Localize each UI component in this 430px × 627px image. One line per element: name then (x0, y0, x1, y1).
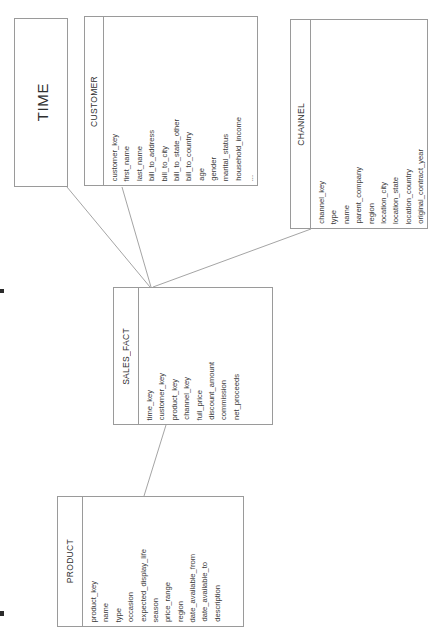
entity-customer[interactable]: CUSTOMER customer_key first_name last_na… (84, 16, 258, 186)
field-item: customer_key (109, 134, 121, 181)
field-item: name (100, 603, 112, 622)
field-item: bill_to_address (146, 130, 158, 181)
entity-product[interactable]: PRODUCT product_key name type occasion e… (57, 496, 244, 627)
entity-time-title: TIME (34, 83, 51, 121)
link-product-salesfact (144, 425, 166, 496)
field-item: season (150, 598, 162, 623)
field-item: region (175, 601, 187, 622)
field-item: description (212, 585, 224, 622)
field-item: channel_key (181, 377, 193, 420)
entity-sales-fact-fields: time_key customer_key product_key channe… (139, 288, 272, 424)
entity-time[interactable]: TIME (14, 18, 68, 187)
field-item: name (341, 205, 353, 224)
field-item: marital_status (220, 134, 232, 181)
schema-diagram-page: TIME CUSTOMER customer_key first_name la… (0, 0, 430, 627)
link-time-salesfact (67, 187, 150, 287)
field-item: gender (208, 157, 220, 181)
entity-time-header: TIME (15, 19, 69, 186)
field-item: bill_to_state_other (171, 119, 183, 181)
field-item: parent_company (353, 167, 365, 224)
entity-product-header: PRODUCT (58, 497, 83, 626)
link-customer-salesfact (122, 187, 151, 287)
field-item: location_country (403, 169, 415, 224)
field-item: location_city (378, 182, 390, 224)
entity-sales-fact-title: SALES_FACT (121, 328, 131, 385)
field-item: net_proceeds (231, 374, 243, 420)
entity-channel-title: CHANNEL (296, 103, 306, 146)
entity-channel-header: CHANNEL (291, 20, 311, 228)
field-item: time_key (144, 390, 156, 420)
field-item: full_price (194, 390, 206, 420)
field-item: channel_key (316, 181, 328, 224)
field-item: original_contract_year (415, 149, 427, 224)
field-item: last_name (134, 146, 146, 181)
field-item: discount_amount (206, 362, 218, 420)
entity-product-fields: product_key name type occasion expected_… (83, 497, 243, 626)
field-item: price_range (162, 582, 174, 622)
field-item: customer_key (156, 373, 168, 420)
field-item: type (113, 608, 125, 622)
field-item: occasion (125, 592, 137, 622)
field-item: expected_display_life (138, 549, 150, 622)
entity-customer-title: CUSTOMER (89, 76, 99, 127)
field-item-ellipsis: ... (245, 175, 257, 181)
field-item: commission (218, 380, 230, 420)
field-item: household_income (233, 117, 245, 181)
entity-sales-fact-header: SALES_FACT (114, 288, 139, 424)
entity-product-title: PRODUCT (65, 539, 75, 583)
field-item: first_name (121, 146, 133, 181)
link-channel-salesfact (153, 229, 311, 287)
field-item: region (366, 203, 378, 224)
entity-customer-header: CUSTOMER (85, 17, 104, 185)
field-item: bill_to_city (159, 146, 171, 181)
scan-artifact-mark (0, 611, 4, 616)
entity-channel-fields: channel_key type name parent_company reg… (311, 20, 430, 228)
field-item: age (196, 168, 208, 181)
field-item: date_available_from (187, 554, 199, 622)
field-item: product_key (169, 379, 181, 420)
field-item: location_state (390, 177, 402, 224)
field-item: type (328, 210, 340, 224)
field-item: date_available_to (199, 562, 211, 622)
entity-customer-fields: customer_key first_name last_name bill_t… (104, 17, 262, 185)
entity-sales-fact[interactable]: SALES_FACT time_key customer_key product… (113, 287, 273, 425)
entity-channel[interactable]: CHANNEL channel_key type name parent_com… (290, 19, 428, 229)
field-item: product_key (88, 581, 100, 622)
field-item: bill_to_country (183, 132, 195, 181)
scan-artifact-mark (0, 289, 4, 293)
